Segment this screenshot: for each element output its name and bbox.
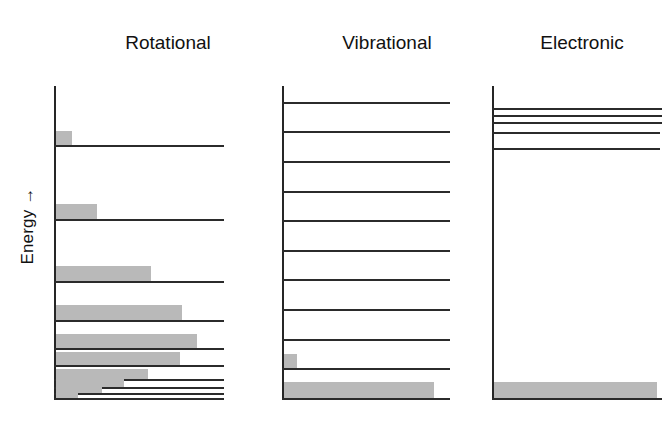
y-axis-label: Energy → [18, 146, 38, 306]
energy-level-line [282, 191, 450, 193]
plot-area-electronic [492, 86, 662, 398]
population-bar [56, 266, 151, 281]
energy-level-line [282, 339, 450, 341]
population-bar [284, 354, 297, 368]
energy-level-line [282, 161, 450, 163]
panel-title-electronic: Electronic [492, 32, 672, 54]
energy-level-line [282, 309, 450, 311]
energy-level-figure: Energy → Rotational Vibrational Electron… [0, 0, 672, 439]
population-bar [56, 305, 182, 320]
energy-level-line [282, 279, 450, 281]
population-bar [56, 204, 97, 219]
energy-level-line [282, 398, 450, 400]
energy-level-line [492, 148, 660, 150]
energy-level-line [282, 102, 450, 104]
energy-level-line [54, 365, 224, 367]
population-bar [56, 352, 180, 365]
energy-level-line [492, 398, 662, 400]
population-bar [56, 131, 72, 145]
y-axis-label-container: Energy → [0, 150, 46, 310]
energy-level-line [492, 122, 662, 124]
energy-level-line [492, 115, 662, 117]
energy-level-line [492, 108, 662, 110]
energy-level-line [282, 368, 450, 370]
energy-level-line [54, 348, 224, 350]
population-bar [56, 379, 124, 387]
energy-level-line [54, 393, 224, 395]
energy-level-line [54, 219, 224, 221]
plot-area-vibrational [282, 86, 450, 398]
energy-level-line [54, 320, 224, 322]
population-bar [56, 369, 148, 379]
energy-level-line [54, 398, 224, 400]
energy-level-line [492, 132, 660, 134]
energy-level-line [282, 220, 450, 222]
energy-level-line [54, 145, 224, 147]
population-bar [284, 382, 434, 398]
population-bar [56, 334, 197, 348]
energy-level-line [54, 281, 224, 283]
energy-level-line [282, 131, 450, 133]
plot-area-rotational [54, 86, 224, 398]
panel-title-vibrational: Vibrational [282, 32, 492, 54]
energy-level-line [282, 250, 450, 252]
panel-title-rotational: Rotational [54, 32, 282, 54]
population-bar [494, 382, 657, 398]
